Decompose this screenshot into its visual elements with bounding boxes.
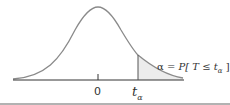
eq-equals: = bbox=[164, 61, 179, 72]
distribution-diagram bbox=[0, 0, 230, 105]
t-alpha-label: tα bbox=[132, 84, 143, 102]
zero-label: 0 bbox=[94, 85, 101, 98]
alpha-equation: α = P[ T ≤ tα ] bbox=[157, 61, 230, 75]
eq-alpha: α bbox=[157, 61, 164, 72]
t-subscript: α bbox=[137, 93, 142, 102]
eq-body: [ T ≤ t bbox=[185, 61, 218, 72]
eq-close: ] bbox=[223, 61, 230, 72]
